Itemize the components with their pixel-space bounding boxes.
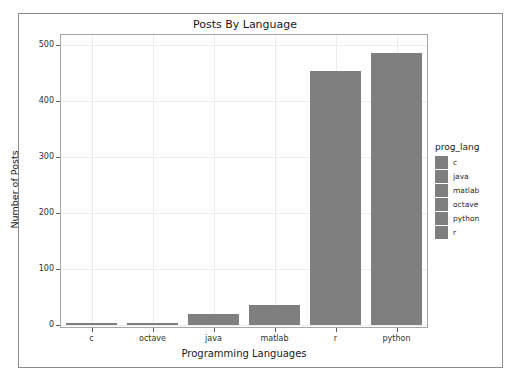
bar-python[interactable]	[371, 53, 421, 325]
x-tick-label: python	[366, 334, 427, 343]
legend-item-python[interactable]: python	[435, 211, 497, 225]
legend-item-r[interactable]: r	[435, 225, 497, 239]
y-tick-label: 200	[39, 207, 54, 219]
legend-label: java	[453, 172, 469, 181]
legend-label: matlab	[453, 186, 479, 195]
legend-item-matlab[interactable]: matlab	[435, 183, 497, 197]
gridline-vertical	[153, 35, 154, 327]
legend-item-octave[interactable]: octave	[435, 197, 497, 211]
y-tick-label: 400	[39, 95, 54, 107]
gridline-horizontal	[61, 45, 427, 46]
x-axis-title: Programming Languages	[60, 348, 428, 359]
legend-swatch	[435, 226, 448, 239]
gridline-horizontal	[61, 325, 427, 326]
legend-item-c[interactable]: c	[435, 155, 497, 169]
legend-label: octave	[453, 200, 478, 209]
y-tick-label: 300	[39, 151, 54, 163]
y-tick-label: 500	[39, 39, 54, 51]
legend-swatch	[435, 170, 448, 183]
plot-area	[61, 35, 427, 327]
bar-octave[interactable]	[127, 323, 177, 325]
plot-panel	[60, 34, 428, 328]
x-tick-mark	[336, 328, 337, 332]
chart-title: Posts By Language	[60, 18, 430, 31]
x-tick-label: octave	[122, 334, 183, 343]
gridline-vertical	[214, 35, 215, 327]
legend-swatch	[435, 184, 448, 197]
bar-r[interactable]	[310, 71, 360, 325]
x-tick-label: c	[61, 334, 122, 343]
bar-java[interactable]	[188, 314, 238, 325]
legend-label: c	[453, 158, 457, 167]
y-tick-label: 0	[49, 319, 54, 331]
x-tick-mark	[153, 328, 154, 332]
x-tick-label: matlab	[244, 334, 305, 343]
x-tick-mark	[214, 328, 215, 332]
x-tick-mark	[397, 328, 398, 332]
legend-swatch	[435, 212, 448, 225]
legend-items: cjavamatlaboctavepythonr	[435, 155, 497, 239]
x-tick-label: java	[183, 334, 244, 343]
bar-matlab[interactable]	[249, 305, 299, 325]
y-tick-label: 100	[39, 263, 54, 275]
legend-label: r	[453, 228, 456, 237]
y-axis-title: Number of Posts	[9, 130, 20, 250]
gridline-vertical	[275, 35, 276, 327]
legend-title: prog_lang	[435, 142, 497, 152]
legend-label: python	[453, 214, 479, 223]
legend-swatch	[435, 156, 448, 169]
x-tick-mark	[92, 328, 93, 332]
x-tick-mark	[275, 328, 276, 332]
y-axis: Number of Posts 0100200300400500	[0, 34, 60, 328]
bar-c[interactable]	[66, 323, 116, 325]
x-tick-label: r	[305, 334, 366, 343]
legend-swatch	[435, 198, 448, 211]
gridline-vertical	[92, 35, 93, 327]
legend: prog_lang cjavamatlaboctavepythonr	[435, 142, 497, 239]
x-axis: coctavejavamatlabrpython	[60, 328, 428, 350]
legend-item-java[interactable]: java	[435, 169, 497, 183]
